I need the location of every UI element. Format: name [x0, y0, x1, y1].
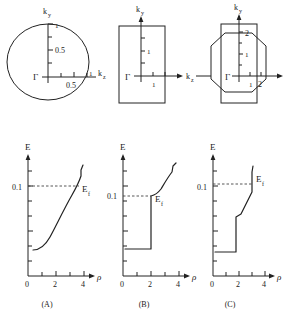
panel-c-caption: (C) — [225, 300, 236, 309]
panel-b-ky-label: k — [136, 5, 140, 14]
panel-c-plot-ylabel: E — [210, 142, 216, 152]
panel-c-ytick-1: 1 — [245, 51, 249, 59]
panel-b-xtick-4: 4 — [176, 280, 180, 289]
panel-a-fermi-surface: k y k z 1 0.5 0.5 1 Γ — [7, 7, 106, 100]
panel-c-xtick-4: 4 — [262, 280, 266, 289]
panel-c-ky-sub: y — [239, 8, 242, 14]
panel-a-xtick-1: 1 — [89, 70, 93, 78]
panel-b-dispersion-curve — [125, 163, 176, 249]
panel-a-plot-ylabel: E — [25, 142, 31, 152]
panel-b-ytick-01: 0.1 — [107, 192, 117, 201]
panel-c-fermi-surface: k y 2 1 1 2 Γ — [196, 3, 283, 103]
panel-a-caption: (A) — [41, 300, 52, 309]
panel-b-fermi-surface: k y k z 1 1 Γ — [119, 5, 194, 103]
panel-a-plot: E ρ 0.1 0 2 4 E f — [12, 142, 102, 289]
panel-b-kz-sub: z — [191, 77, 194, 83]
figure-svg: k y k z 1 0.5 0.5 1 Γ k y k z 1 1 Γ — [0, 0, 285, 322]
panel-a-dispersion-curve — [33, 165, 83, 250]
panel-c-dispersion-curve — [215, 166, 253, 252]
panel-a-ky-sub: y — [48, 12, 51, 18]
panel-c-plot: E ρ 0.1 0 2 4 E f — [197, 142, 282, 289]
panel-b-plot-ylabel: E — [120, 142, 126, 152]
panel-b-xtick-1: 1 — [152, 81, 156, 89]
panel-a-ky-label: k — [43, 7, 47, 16]
panel-b-xtick-2: 2 — [148, 280, 152, 289]
panel-c-fermi-sub: f — [262, 181, 264, 187]
panel-a-fermi-sub: f — [88, 191, 90, 197]
panel-a-plot-yarrow — [26, 154, 31, 160]
panel-c-ytick-01: 0.1 — [197, 183, 207, 192]
panel-b-ytick-1: 1 — [147, 48, 151, 56]
panel-b-fermi-sub: f — [161, 201, 163, 207]
panel-b-kz-arrowhead — [177, 74, 183, 79]
panel-c-ky-arrowhead — [237, 14, 242, 20]
panel-a-kz-label: k — [98, 69, 102, 78]
panel-b-plot: E ρ 0.1 0 2 4 E f — [107, 142, 197, 289]
panel-c-gamma-label: Γ — [225, 72, 230, 82]
panel-a-xtick-4: 4 — [81, 280, 85, 289]
panel-b-gamma-label: Γ — [125, 72, 130, 82]
panel-a-plot-xarrow — [89, 274, 95, 279]
panel-a-xtick-2: 2 — [53, 280, 57, 289]
panel-a-ytick-01: 0.1 — [12, 183, 22, 192]
panel-c-xtick-2: 2 — [258, 80, 262, 89]
panel-a-xtick-0: 0 — [25, 280, 29, 289]
panel-b-plot-yarrow — [121, 154, 126, 160]
panel-c-xtick-1: 1 — [249, 81, 253, 89]
panel-a-ytick-1: 1 — [55, 22, 59, 30]
panel-c-xtick-0: 0 — [210, 280, 214, 289]
panel-c-kz-arrowhead — [277, 74, 283, 79]
panel-c-plot-xarrow — [269, 274, 275, 279]
panel-c-plot-yarrow — [211, 154, 216, 160]
panel-a-plot-xlabel: ρ — [96, 272, 102, 282]
panel-b-kz-label: k — [186, 72, 190, 81]
panel-c-ytick-2: 2 — [245, 29, 249, 38]
panel-a-xtick-05: 0.5 — [66, 81, 76, 90]
panel-b-plot-xlabel: ρ — [191, 272, 197, 282]
panel-c-ky-label: k — [234, 3, 238, 12]
panel-a-ytick-05: 0.5 — [55, 46, 65, 55]
panel-a-kz-sub: z — [103, 74, 106, 80]
panel-b-plot-xarrow — [184, 274, 190, 279]
panel-b-xtick-0: 0 — [120, 280, 124, 289]
panel-b-ky-arrowhead — [139, 16, 144, 22]
figure-root: k y k z 1 0.5 0.5 1 Γ k y k z 1 1 Γ — [0, 0, 285, 322]
panel-a-gamma-label: Γ — [33, 72, 38, 82]
panel-b-ky-sub: y — [141, 10, 144, 16]
panel-c-xtick-2: 2 — [236, 280, 240, 289]
panel-b-caption: (B) — [139, 300, 150, 309]
panel-c-plot-xlabel: ρ — [276, 272, 282, 282]
